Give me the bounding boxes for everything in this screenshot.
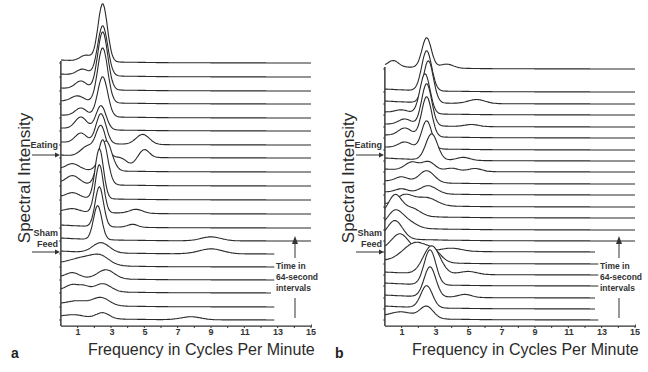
arrow-head-icon bbox=[379, 153, 384, 158]
eating-marker-label: Eating bbox=[28, 140, 58, 151]
x-tick-7: 7 bbox=[175, 327, 180, 337]
x-tick-11: 11 bbox=[564, 327, 574, 337]
panel-a: Spectral Intensity Eating Sham Feed Time… bbox=[0, 0, 324, 372]
x-tick-9: 9 bbox=[532, 327, 537, 337]
x-axis-label: Frequency in Cycles Per Minute bbox=[412, 341, 639, 359]
x-tick-5: 5 bbox=[142, 327, 147, 337]
arrow-head-icon bbox=[379, 250, 384, 255]
panel-letter-b: b bbox=[335, 345, 344, 361]
eating-marker-label: Eating bbox=[352, 140, 382, 151]
x-tick-7: 7 bbox=[499, 327, 504, 337]
sham-feed-marker-label: Sham Feed bbox=[352, 228, 382, 250]
x-tick-13: 13 bbox=[273, 327, 283, 337]
x-tick-1: 1 bbox=[399, 327, 404, 337]
x-tick-9: 9 bbox=[208, 327, 213, 337]
sham-feed-marker-label: Sham Feed bbox=[28, 228, 58, 250]
time-interval-note: Time in 64-second intervals bbox=[600, 261, 642, 294]
spectra-plot-b bbox=[324, 0, 648, 372]
x-tick-11: 11 bbox=[240, 327, 250, 337]
x-tick-3: 3 bbox=[433, 327, 438, 337]
x-axis-label: Frequency in Cycles Per Minute bbox=[88, 341, 315, 359]
x-tick-15: 15 bbox=[306, 327, 316, 337]
panel-b: Spectral Intensity Eating Sham Feed Time… bbox=[324, 0, 648, 372]
x-tick-1: 1 bbox=[75, 327, 80, 337]
panel-letter-a: a bbox=[11, 345, 19, 361]
x-tick-15: 15 bbox=[630, 327, 640, 337]
x-tick-3: 3 bbox=[109, 327, 114, 337]
x-tick-13: 13 bbox=[597, 327, 607, 337]
spectra-plot-a bbox=[0, 0, 324, 372]
x-tick-5: 5 bbox=[466, 327, 471, 337]
arrow-head-icon bbox=[55, 153, 60, 158]
time-interval-note: Time in 64-second intervals bbox=[276, 261, 318, 294]
